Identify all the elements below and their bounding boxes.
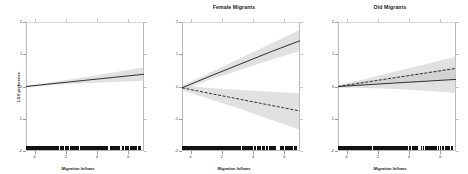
- rug-tick: [135, 146, 136, 150]
- rug-tick: [364, 146, 365, 150]
- y-tick: [179, 54, 182, 55]
- rug-tick: [374, 146, 375, 150]
- rug-tick: [106, 146, 107, 150]
- rug-tick: [26, 146, 27, 150]
- rug-tick: [140, 146, 141, 150]
- rug-tick: [218, 146, 219, 150]
- panel-title: Female Migrants: [156, 4, 312, 11]
- rug-tick: [267, 146, 268, 150]
- rug-tick: [30, 146, 31, 150]
- rug-tick: [190, 146, 191, 150]
- rug-tick: [246, 146, 247, 150]
- rug-tick: [251, 146, 252, 150]
- rug-tick: [78, 146, 79, 150]
- rug-tick: [397, 146, 398, 150]
- rug-tick: [353, 146, 354, 150]
- rug-tick: [63, 146, 64, 150]
- rug-tick: [215, 146, 216, 150]
- x-tick-top: [35, 19, 36, 22]
- x-axis-label: Migration Inflows: [156, 166, 312, 171]
- rug-tick: [244, 146, 245, 150]
- x-tick-top: [128, 19, 129, 22]
- x-tick-label: 0: [346, 155, 348, 159]
- rug-tick: [451, 146, 452, 150]
- x-tick-top: [253, 19, 254, 22]
- rug-tick: [354, 146, 355, 150]
- rug-tick: [50, 146, 51, 150]
- y-tick-label: 2: [332, 20, 334, 24]
- rug-tick: [54, 146, 55, 150]
- rug-plot: [182, 146, 300, 150]
- rug-tick: [431, 146, 432, 150]
- panel-female-migrants: Female Migrants Migration Inflows -2-101…: [156, 0, 312, 174]
- rug-plot: [338, 146, 456, 150]
- rug-tick: [374, 146, 375, 150]
- rug-tick: [71, 146, 72, 150]
- rug-tick: [184, 146, 185, 150]
- x-tick-top: [409, 19, 410, 22]
- rug-tick: [271, 146, 272, 150]
- rug-tick: [402, 146, 403, 150]
- y-tick: [23, 54, 26, 55]
- rug-tick: [95, 146, 96, 150]
- rug-tick: [240, 146, 241, 150]
- rug-tick: [410, 146, 411, 150]
- rug-tick: [386, 146, 387, 150]
- rug-tick: [423, 146, 424, 150]
- rug-tick: [249, 146, 250, 150]
- rug-tick: [237, 146, 238, 150]
- x-tick: [440, 151, 441, 154]
- rug-tick: [258, 146, 259, 150]
- x-tick: [222, 151, 223, 154]
- trend-line: [182, 41, 300, 88]
- rug-tick: [188, 146, 189, 150]
- rug-tick: [231, 146, 232, 150]
- rug-tick: [413, 146, 414, 150]
- rug-tick: [70, 146, 71, 150]
- x-tick-label: 4: [96, 155, 98, 159]
- plot-svg: [182, 22, 300, 151]
- rug-tick: [395, 146, 396, 150]
- rug-tick: [99, 146, 100, 150]
- x-tick: [378, 151, 379, 154]
- rug-tick: [259, 146, 260, 150]
- rug-tick: [186, 146, 187, 150]
- x-tick-label: 2: [377, 155, 379, 159]
- rug-tick: [348, 146, 349, 150]
- rug-tick: [48, 146, 49, 150]
- rug-tick: [432, 146, 433, 150]
- rug-tick: [254, 146, 255, 150]
- rug-tick: [198, 146, 199, 150]
- y-tick-right: [456, 22, 459, 23]
- y-tick: [179, 87, 182, 88]
- x-tick-label: 6: [283, 155, 285, 159]
- y-tick: [335, 54, 338, 55]
- y-tick-right: [456, 151, 459, 152]
- x-tick-label: 2: [65, 155, 67, 159]
- panel-title: Old Migrants: [312, 4, 468, 11]
- rug-tick: [230, 146, 231, 150]
- rug-tick: [119, 146, 120, 150]
- y-tick-right: [144, 22, 147, 23]
- y-tick-label: -2: [19, 149, 22, 153]
- rug-tick: [452, 146, 453, 150]
- y-tick-label: 1: [20, 52, 22, 56]
- rug-tick: [421, 146, 422, 150]
- rug-tick: [407, 146, 408, 150]
- rug-tick: [197, 146, 198, 150]
- x-axis-label: Migration Inflows: [0, 166, 156, 171]
- y-tick: [335, 151, 338, 152]
- rug-tick: [136, 146, 137, 150]
- rug-tick: [359, 146, 360, 150]
- y-tick-label: 0: [332, 85, 334, 89]
- plot-area: -2-10120246: [26, 22, 144, 151]
- rug-tick: [110, 146, 111, 150]
- rug-tick: [61, 146, 62, 150]
- rug-tick: [125, 146, 126, 150]
- rug-tick: [68, 146, 69, 150]
- rug-tick: [405, 146, 406, 150]
- rug-tick: [387, 146, 388, 150]
- rug-tick: [389, 146, 390, 150]
- x-tick: [253, 151, 254, 154]
- y-tick-right: [456, 54, 459, 55]
